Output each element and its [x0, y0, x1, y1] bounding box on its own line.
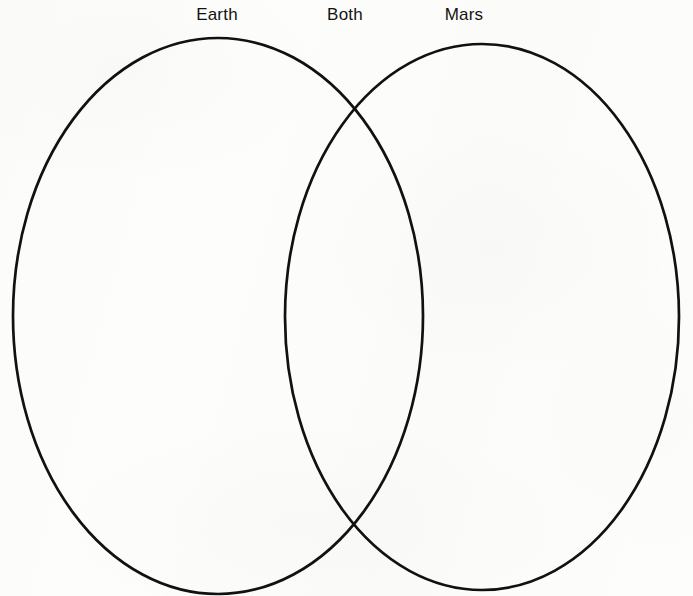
venn-diagram-page: Earth Both Mars [0, 0, 693, 596]
venn-circle-earth [13, 38, 423, 594]
venn-label-mars: Mars [445, 5, 484, 25]
venn-label-earth: Earth [196, 5, 238, 25]
venn-label-both: Both [327, 5, 363, 25]
venn-diagram-svg [0, 0, 693, 596]
venn-circle-mars [285, 44, 679, 590]
